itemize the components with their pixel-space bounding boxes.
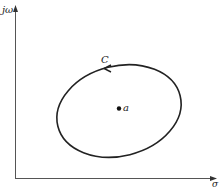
- point-a-dot-icon: [117, 106, 121, 110]
- diagram-graphics: [0, 0, 222, 189]
- horizontal-axis: [15, 176, 217, 181]
- complex-plane-diagram: jω σ C a: [0, 0, 222, 189]
- point-label: a: [123, 103, 129, 113]
- arrow-up-icon: [13, 5, 18, 12]
- vertical-axis-label: jω: [2, 5, 13, 15]
- contour-label: C: [101, 55, 109, 65]
- contour-direction-arrow-icon: [104, 65, 111, 72]
- horizontal-axis-label: σ: [212, 180, 218, 189]
- contour-c: [47, 52, 191, 170]
- vertical-axis: [13, 5, 18, 178]
